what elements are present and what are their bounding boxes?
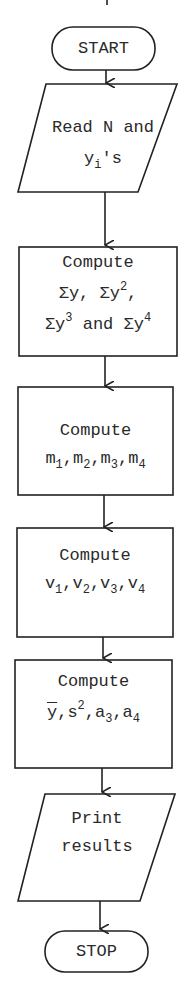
sums-line-2: Σy3 and Σy4 — [19, 314, 177, 336]
read-line-1: Read N and — [28, 117, 178, 139]
m-terms: m1,m2,m3,m4 — [18, 448, 173, 470]
v-terms: v1,v2,v3,v4 — [17, 573, 173, 595]
read-label: Read N and yi's — [28, 117, 178, 170]
compute-m-label: Compute m1,m2,m3,m4 — [18, 420, 173, 470]
compute-title: Compute — [15, 671, 172, 693]
start-label: START — [52, 38, 155, 60]
print-label: Print results — [22, 808, 172, 858]
compute-title: Compute — [18, 420, 173, 442]
sums-line-1: Σy, Σy2, — [19, 283, 177, 305]
stats-terms: y,s2,a3,a4 — [15, 702, 172, 724]
read-line-2: yi's — [28, 148, 178, 170]
compute-title: Compute — [17, 545, 173, 567]
stop-text: STOP — [76, 942, 117, 961]
compute-title: Compute — [19, 252, 177, 274]
apos-s: 's — [102, 149, 122, 168]
compute-sums-label: Compute Σy, Σy2, Σy3 and Σy4 — [19, 252, 177, 336]
compute-v-label: Compute v1,v2,v3,v4 — [17, 545, 173, 595]
y-var: y — [84, 149, 94, 168]
print-text: Print — [22, 808, 172, 830]
stop-label: STOP — [45, 941, 148, 963]
i-subscript: i — [94, 158, 101, 172]
start-text: START — [78, 39, 129, 58]
compute-stats-label: Compute y,s2,a3,a4 — [15, 671, 172, 724]
results-text: results — [22, 836, 172, 858]
y-bar: y — [47, 703, 57, 722]
